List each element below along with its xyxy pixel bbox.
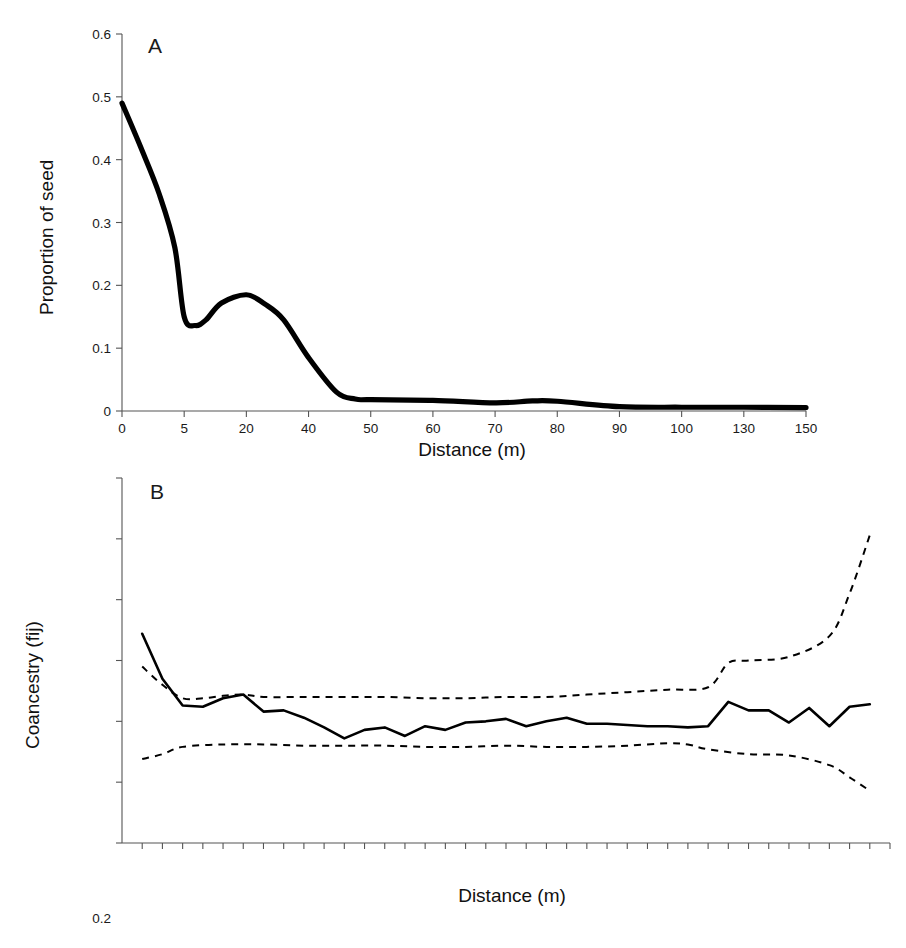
panel-b-y-tick-label: 0.2	[40, 911, 111, 926]
panel-a-x-tick-label: 100	[670, 421, 693, 436]
panel-b-coancestry-line	[142, 634, 870, 739]
panel-b-axes	[116, 478, 890, 849]
panel-b-plot	[0, 440, 906, 900]
panel-b-x-tickmarks	[142, 843, 890, 849]
panel-a-y-tickmarks	[116, 34, 122, 411]
panel-a-x-tick-label: 80	[550, 421, 565, 436]
chart-panel-b: B Coancestry (fij) Distance (m) -0.1-0.0…	[0, 440, 906, 948]
panel-a-x-tick-label: 50	[363, 421, 378, 436]
panel-b-upper-confidence-band	[142, 535, 870, 699]
panel-a-x-tick-label: 130	[733, 421, 756, 436]
panel-a-x-tickmarks	[122, 411, 806, 417]
panel-a-y-tick-label: 0.2	[55, 278, 111, 293]
panel-a-x-tick-label: 0	[118, 421, 126, 436]
panel-b-y-tickmarks	[116, 478, 122, 843]
panel-a-y-tick-label: 0.4	[55, 152, 111, 167]
panel-a-y-tick-label: 0.5	[55, 89, 111, 104]
panel-a-y-tick-label: 0	[55, 404, 111, 419]
panel-a-axes	[116, 34, 806, 417]
panel-a-dispersal-curve	[122, 103, 806, 407]
figure-container: A Proportion of seed Distance (m) 00.10.…	[0, 0, 906, 948]
panel-b-data-markers	[142, 440, 870, 733]
panel-a-x-tick-label: 150	[795, 421, 818, 436]
panel-a-x-tick-label: 70	[488, 421, 503, 436]
panel-a-y-tick-label: 0.3	[55, 215, 111, 230]
panel-a-y-tick-label: 0.6	[55, 27, 111, 42]
panel-a-x-tick-label: 20	[239, 421, 254, 436]
panel-a-x-tick-label: 5	[180, 421, 188, 436]
panel-b-series-group	[142, 440, 870, 790]
panel-a-series-group	[122, 103, 806, 407]
panel-a-plot	[0, 0, 906, 470]
chart-panel-a: A Proportion of seed Distance (m) 00.10.…	[0, 0, 906, 470]
panel-b-lower-confidence-band	[142, 743, 870, 790]
panel-a-x-tick-label: 40	[301, 421, 316, 436]
panel-a-x-tick-label: 90	[612, 421, 627, 436]
panel-a-x-tick-label: 60	[425, 421, 440, 436]
panel-a-y-tick-label: 0.1	[55, 341, 111, 356]
